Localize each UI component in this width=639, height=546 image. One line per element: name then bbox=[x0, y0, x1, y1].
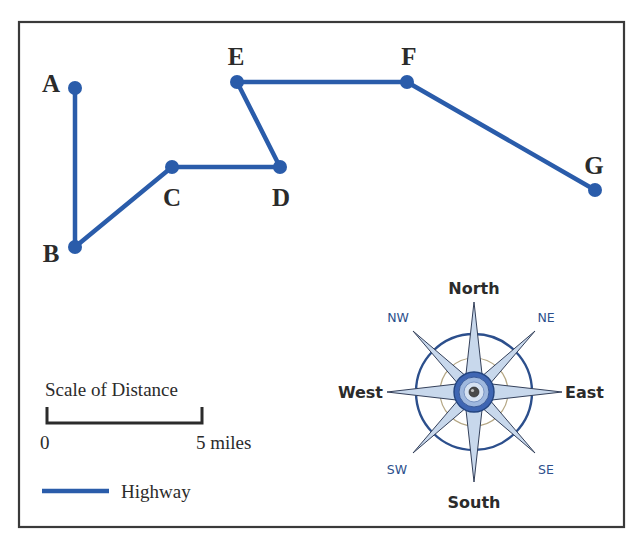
point-marker-icon bbox=[165, 160, 179, 174]
point-c: C bbox=[163, 160, 181, 211]
compass-se-label: SE bbox=[538, 462, 554, 477]
compass-sw-label: SW bbox=[387, 462, 407, 477]
point-e: E bbox=[228, 43, 245, 89]
compass-ne-label: NE bbox=[537, 310, 554, 325]
point-label: B bbox=[43, 240, 60, 267]
map-canvas: ABCDEFG Scale of Distance 0 5 miles High… bbox=[0, 0, 639, 546]
point-label: F bbox=[401, 43, 416, 70]
compass-nw-label: NW bbox=[387, 310, 409, 325]
compass-pin bbox=[469, 387, 479, 397]
compass-pin-glint bbox=[471, 389, 474, 392]
point-marker-icon bbox=[68, 240, 82, 254]
point-label: G bbox=[584, 152, 603, 179]
point-label: D bbox=[272, 184, 290, 211]
point-marker-icon bbox=[273, 160, 287, 174]
point-label: E bbox=[228, 43, 245, 70]
compass-east-label: East bbox=[565, 383, 604, 402]
scale-title: Scale of Distance bbox=[45, 379, 178, 400]
compass-north-label: North bbox=[448, 279, 499, 298]
point-label: C bbox=[163, 184, 181, 211]
point-marker-icon bbox=[230, 75, 244, 89]
highway-legend-label: Highway bbox=[121, 481, 191, 502]
scale-end-label: 5 miles bbox=[196, 432, 251, 453]
compass-south-label: South bbox=[448, 493, 501, 512]
compass-west-label: West bbox=[338, 383, 383, 402]
point-marker-icon bbox=[68, 81, 82, 95]
scale-start-label: 0 bbox=[40, 432, 50, 453]
point-marker-icon bbox=[588, 183, 602, 197]
point-marker-icon bbox=[400, 75, 414, 89]
point-label: A bbox=[42, 70, 60, 97]
